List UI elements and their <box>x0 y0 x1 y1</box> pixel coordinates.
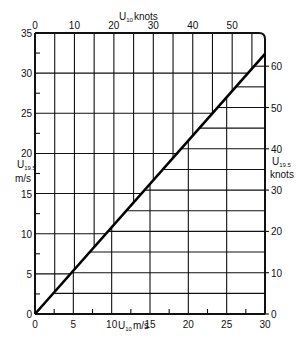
bottom-tick-label: 25 <box>221 319 233 330</box>
left-tick-label: 15 <box>21 189 33 200</box>
top-tick-label: 50 <box>227 20 239 31</box>
right-axis-unit: knots <box>270 169 294 180</box>
left-tick-label: 10 <box>21 229 33 240</box>
right-tick-label: 10 <box>271 268 283 279</box>
top-tick-label: 0 <box>32 20 38 31</box>
right-axis-title: U19.5 <box>272 156 292 168</box>
left-tick-label: 30 <box>21 68 33 79</box>
right-tick-label: 50 <box>271 103 283 114</box>
top-tick-label: 10 <box>69 20 81 31</box>
top-axis-line <box>35 33 265 39</box>
wind-speed-conversion-chart: 0510152025300510152025303501020304050010… <box>0 0 304 350</box>
bottom-tick-label: 20 <box>183 319 195 330</box>
left-tick-label: 0 <box>26 309 32 320</box>
bottom-tick-label: 10 <box>106 319 118 330</box>
left-tick-label: 20 <box>21 148 33 159</box>
right-tick-label: 20 <box>271 226 283 237</box>
grid-lines <box>35 33 265 314</box>
right-tick-label: 0 <box>271 309 277 320</box>
right-tick-label: 30 <box>271 185 283 196</box>
left-tick-label: 25 <box>21 108 33 119</box>
top-tick-label: 40 <box>187 20 199 31</box>
right-tick-label: 40 <box>271 144 283 155</box>
left-axis-title: U19.5 <box>17 159 37 171</box>
right-tick-label: 60 <box>271 61 283 72</box>
bottom-tick-label: 30 <box>259 319 271 330</box>
left-tick-label: 35 <box>21 28 33 39</box>
bottom-tick-label: 0 <box>32 319 38 330</box>
left-tick-label: 5 <box>26 269 32 280</box>
top-axis-title: U10knots <box>119 11 158 23</box>
axis-tick-labels: 0510152025300510152025303501020304050010… <box>21 20 283 330</box>
left-axis-unit: m/s <box>15 173 31 184</box>
bottom-tick-label: 5 <box>71 319 77 330</box>
bottom-axis-title: U10m/s <box>118 320 149 332</box>
